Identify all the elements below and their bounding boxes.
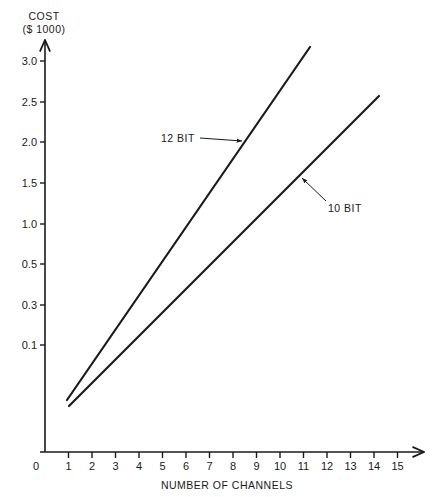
- y-tick-label: 1.5: [22, 177, 37, 189]
- y-tick-label: 2.0: [22, 136, 37, 148]
- y-tick-label: 0.5: [22, 258, 37, 270]
- x-tick-label: 14: [368, 460, 380, 472]
- x-tick-label: 4: [136, 460, 142, 472]
- y-axis-title-line1: COST: [28, 10, 59, 22]
- x-tick-label: 12: [321, 460, 333, 472]
- series-label-12-bit: 12 BIT: [161, 132, 195, 144]
- y-tick-label: 3.0: [22, 55, 37, 67]
- y-tick-labels: 0.1 0.3 0.5 1.0 1.5 2.0 2.5 3.0: [22, 55, 37, 351]
- x-tick-label: 7: [206, 460, 212, 472]
- x-origin-label: 0: [33, 460, 39, 472]
- series-line-12-bit: [67, 47, 310, 400]
- x-tick-label: 8: [230, 460, 236, 472]
- x-tick-label: 2: [89, 460, 95, 472]
- line-chart: COST ($ 1000) 0.1 0.3 0.5 1.0 1.5 2.0 2.…: [0, 0, 437, 497]
- x-tick-label: 1: [65, 460, 71, 472]
- x-tick-labels: 0 1 2 3 4 5 6 7 8 9 10 11 12 13 14 15: [33, 460, 404, 472]
- series-label-10-bit: 10 BIT: [328, 202, 362, 214]
- y-tick-label: 0.3: [22, 299, 37, 311]
- x-ticks: [69, 452, 398, 458]
- x-tick-label: 13: [344, 460, 356, 472]
- x-axis-title: NUMBER OF CHANNELS: [161, 479, 293, 491]
- x-tick-label: 11: [298, 460, 309, 472]
- y-tick-label: 0.1: [22, 339, 37, 351]
- x-tick-label: 10: [274, 460, 286, 472]
- x-tick-label: 6: [183, 460, 189, 472]
- y-tick-label: 1.0: [22, 218, 37, 230]
- y-tick-label: 2.5: [22, 96, 37, 108]
- y-axis-title-line2: ($ 1000): [22, 23, 65, 35]
- leader-arrow-12-bit: [200, 138, 242, 141]
- x-tick-label: 3: [112, 460, 118, 472]
- x-tick-label: 5: [159, 460, 165, 472]
- leader-arrow-10-bit: [302, 178, 326, 201]
- series-line-10-bit: [69, 96, 379, 406]
- x-tick-label: 15: [391, 460, 403, 472]
- x-tick-label: 9: [253, 460, 259, 472]
